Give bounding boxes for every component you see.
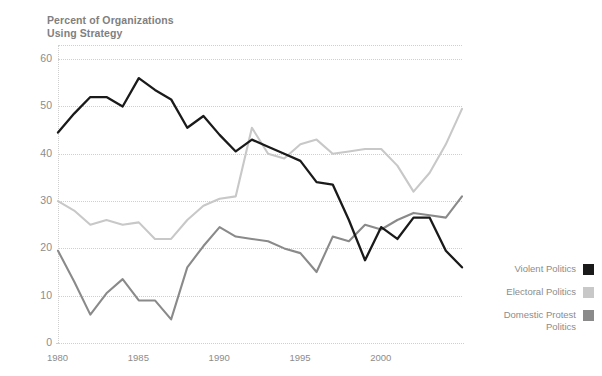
legend-item[interactable]: Electoral Politics [470,286,594,298]
legend-item[interactable]: Violent Politics [470,263,594,275]
legend-label: Electoral Politics [506,286,583,298]
chart-canvas: Percent of Organizations Using Strategy … [0,0,602,376]
legend-color-swatch [583,264,594,275]
legend-color-swatch [583,310,594,321]
legend-color-swatch [583,287,594,298]
series-line [58,109,462,239]
series-line [58,196,462,319]
legend-label: Violent Politics [514,263,583,275]
legend-item[interactable]: Domestic Protest Politics [470,309,594,332]
legend: Violent PoliticsElectoral PoliticsDomest… [470,263,594,343]
legend-label: Domestic Protest Politics [504,309,583,332]
